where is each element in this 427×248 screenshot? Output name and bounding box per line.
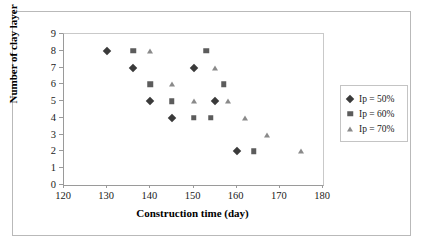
legend-label: Ip = 70%	[359, 124, 394, 134]
data-point-square	[130, 48, 136, 54]
x-tick-label: 130	[86, 190, 126, 201]
y-tick-label: 8	[38, 44, 56, 55]
data-point-triangle	[298, 149, 304, 154]
y-tick-label: 7	[38, 61, 56, 72]
data-point-square	[148, 82, 154, 88]
x-tick-label: 170	[259, 190, 299, 201]
legend-marker-square-icon	[346, 110, 354, 118]
data-point-triangle	[264, 132, 270, 137]
legend-label: Ip = 50%	[359, 94, 394, 104]
data-point-diamond	[129, 63, 137, 71]
y-tick-label: 2	[38, 145, 56, 156]
x-tick-label: 140	[129, 190, 169, 201]
y-axis-label: Number of clay layer	[7, 0, 19, 119]
data-point-square	[169, 98, 175, 104]
data-point-square	[221, 82, 227, 88]
data-point-square	[191, 115, 197, 121]
data-point-diamond	[232, 147, 240, 155]
data-point-diamond	[103, 47, 111, 55]
data-point-triangle	[169, 82, 175, 87]
y-tick-label: 6	[38, 78, 56, 89]
x-tick-label: 160	[216, 190, 256, 201]
data-point-triangle	[191, 99, 197, 104]
y-tick-label: 0	[38, 179, 56, 190]
data-point-diamond	[168, 114, 176, 122]
data-point-diamond	[211, 97, 219, 105]
x-tick-label: 150	[173, 190, 213, 201]
y-tick-label: 1	[38, 162, 56, 173]
y-tick-label: 3	[38, 128, 56, 139]
chart-legend: Ip = 50%Ip = 60%Ip = 70%	[340, 85, 408, 142]
data-point-triangle	[225, 99, 231, 104]
data-point-square	[251, 149, 257, 155]
plot-area	[63, 33, 324, 186]
y-tick-label: 4	[38, 111, 56, 122]
x-axis-label: Construction time (day)	[63, 207, 322, 219]
legend-label: Ip = 60%	[359, 109, 394, 119]
legend-marker-triangle-icon	[346, 125, 354, 133]
data-point-square	[204, 48, 210, 54]
chart-figure: Number of clay layer Construction time (…	[0, 0, 427, 248]
legend-item-3[interactable]: Ip = 70%	[346, 121, 403, 136]
data-point-diamond	[346, 94, 354, 102]
y-tick-label: 9	[38, 28, 56, 39]
y-tick-label: 5	[38, 95, 56, 106]
data-point-triangle	[347, 126, 353, 131]
legend-item-2[interactable]: Ip = 60%	[346, 106, 403, 121]
data-point-triangle	[242, 115, 248, 120]
legend-marker-diamond-icon	[346, 95, 354, 103]
data-point-diamond	[146, 97, 154, 105]
data-point-square	[347, 111, 353, 117]
x-tick-label: 180	[302, 190, 342, 201]
data-point-diamond	[189, 63, 197, 71]
x-tick-label: 120	[43, 190, 83, 201]
data-point-square	[208, 115, 214, 121]
data-point-triangle	[212, 65, 218, 70]
legend-item-1[interactable]: Ip = 50%	[346, 91, 403, 106]
data-point-triangle	[147, 48, 153, 53]
